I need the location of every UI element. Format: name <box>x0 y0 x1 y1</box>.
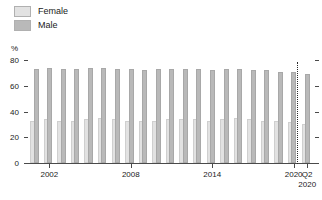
y-axis-label: 0 <box>3 159 19 168</box>
bar-male <box>88 68 93 163</box>
legend-item-female: Female <box>14 5 68 17</box>
bar-male <box>183 69 188 163</box>
bar-group <box>97 60 111 163</box>
bar-group <box>43 60 57 163</box>
legend-swatch-male <box>14 20 31 31</box>
x-axis-line <box>24 163 319 164</box>
bar-male <box>305 74 310 163</box>
x-axis-tick <box>131 164 132 168</box>
bar-group <box>178 60 192 163</box>
y-axis-tick <box>24 60 28 61</box>
legend-swatch-female <box>14 6 31 17</box>
bar-group <box>151 60 165 163</box>
bar-male <box>196 69 201 163</box>
bar-male <box>47 68 52 163</box>
bar-group <box>83 60 97 163</box>
y-axis-label: 80 <box>3 56 19 65</box>
chart-legend: Female Male <box>14 5 68 33</box>
bar-group <box>70 60 84 163</box>
bar-group <box>246 60 260 163</box>
bar-group <box>110 60 124 163</box>
bar-male <box>251 70 256 163</box>
bar-male <box>156 69 161 163</box>
bar-male <box>142 70 147 163</box>
bar-male <box>169 69 174 163</box>
bar-male <box>264 70 269 163</box>
bar-group <box>300 60 314 163</box>
y-axis-tick <box>24 86 28 87</box>
bar-male <box>210 70 215 163</box>
x-axis-tick <box>49 164 50 168</box>
y-axis-tick-right <box>315 60 319 61</box>
bar-male <box>224 69 229 163</box>
x-axis-tick <box>307 164 308 168</box>
bars-layer <box>29 60 314 163</box>
bar-male <box>237 69 242 163</box>
y-axis-tick <box>24 137 28 138</box>
y-axis-label: 40 <box>3 108 19 117</box>
bar-male <box>34 69 39 163</box>
bar-group <box>233 60 247 163</box>
bar-group <box>205 60 219 163</box>
x-axis-tick <box>294 164 295 168</box>
legend-label-male: Male <box>38 21 58 30</box>
bar-group <box>165 60 179 163</box>
bar-male <box>101 68 106 163</box>
bar-group <box>219 60 233 163</box>
bar-group <box>124 60 138 163</box>
x-axis-label: Q2 2020 <box>290 170 322 190</box>
bar-male <box>115 69 120 163</box>
plot-area <box>29 60 314 163</box>
bar-male <box>278 72 283 163</box>
y-axis-label: 20 <box>3 133 19 142</box>
bar-group <box>138 60 152 163</box>
y-axis-tick-right <box>315 137 319 138</box>
bar-male <box>74 69 79 163</box>
y-axis-label: 60 <box>3 82 19 91</box>
y-axis-tick-right <box>315 112 319 113</box>
bar-group <box>192 60 206 163</box>
bar-group <box>29 60 43 163</box>
bar-group <box>260 60 274 163</box>
bar-male <box>61 69 66 163</box>
y-axis-unit-label: % <box>11 44 18 53</box>
legend-item-male: Male <box>14 19 68 31</box>
bar-male <box>291 72 296 163</box>
bar-chart: Female Male % 806040200 2002200820142020… <box>0 0 322 200</box>
y-axis-tick-right <box>315 86 319 87</box>
x-axis-label: 2008 <box>114 170 148 180</box>
x-axis-tick <box>212 164 213 168</box>
legend-label-female: Female <box>38 7 68 16</box>
bar-group <box>56 60 70 163</box>
bar-group <box>273 60 287 163</box>
x-axis-label: 2014 <box>195 170 229 180</box>
y-axis-tick <box>24 112 28 113</box>
period-divider <box>297 62 298 164</box>
bar-male <box>129 69 134 163</box>
x-axis-label: 2002 <box>32 170 66 180</box>
